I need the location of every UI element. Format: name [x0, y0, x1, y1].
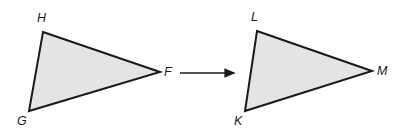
triangle-LKM — [245, 31, 372, 111]
vertex-label-f: F — [164, 66, 172, 79]
vertex-label-h: H — [37, 12, 46, 25]
vertex-label-l: L — [251, 11, 258, 24]
vertex-label-k: K — [234, 115, 242, 128]
figure-canvas — [0, 0, 405, 135]
vertex-label-m: M — [377, 65, 387, 78]
vertex-label-g: G — [17, 115, 27, 128]
triangle-HGF — [29, 32, 160, 111]
geometry-figure: H F G L M K — [0, 0, 405, 135]
